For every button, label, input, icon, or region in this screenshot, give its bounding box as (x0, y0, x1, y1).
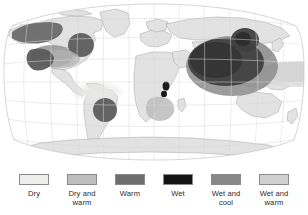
legend-label-dry-and-warm: Dry and warm (68, 189, 95, 207)
color-swatch-dry (19, 174, 49, 185)
legend-label-wet-and-warm: Wet and warm (260, 189, 289, 207)
region-east-africa-great-lakes-north (163, 81, 170, 90)
legend-label-dry: Dry (28, 189, 40, 198)
map-legend: Dry Dry and warm Warm Wet Wet and cool W… (0, 168, 308, 215)
color-swatch-dry-and-warm (67, 174, 97, 185)
legend-item-wet-and-cool: Wet and cool (202, 168, 250, 207)
region-southern-africa (146, 97, 174, 121)
legend-item-wet: Wet (154, 168, 202, 198)
color-swatch-wet (163, 174, 193, 185)
legend-label-warm: Warm (120, 189, 140, 198)
color-swatch-wet-and-cool (211, 174, 241, 185)
legend-item-dry: Dry (10, 168, 58, 198)
legend-label-wet-and-cool: Wet and cool (212, 189, 241, 207)
color-swatch-wet-and-warm (259, 174, 289, 185)
region-east-africa-great-lakes-south (161, 91, 167, 97)
color-swatch-warm (115, 174, 145, 185)
legend-item-dry-and-warm: Dry and warm (58, 168, 106, 207)
globe-body (0, 0, 308, 168)
region-southeast-brazil-uruguay (93, 98, 117, 122)
world-map-svg (0, 0, 308, 168)
legend-item-wet-and-warm: Wet and warm (250, 168, 298, 207)
world-map-figure (0, 0, 308, 168)
legend-item-warm: Warm (106, 168, 154, 198)
legend-label-wet: Wet (171, 189, 185, 198)
